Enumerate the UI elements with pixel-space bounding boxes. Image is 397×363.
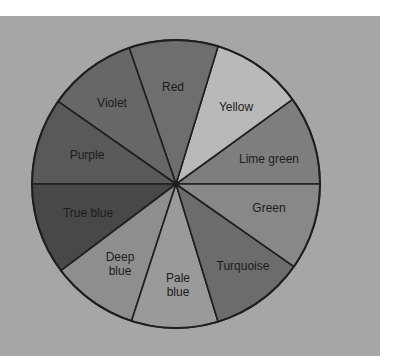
segment-label-red: Red bbox=[162, 80, 184, 94]
segment-label-yellow: Yellow bbox=[219, 100, 254, 114]
segment-label-true-blue: True blue bbox=[63, 206, 114, 220]
segment-label-pale-blue-line1: Pale bbox=[166, 271, 190, 285]
segment-label-purple: Purple bbox=[70, 148, 105, 162]
segment-label-green: Green bbox=[252, 201, 285, 215]
segment-label-deep-blue-line1: Deep bbox=[106, 250, 135, 264]
color-wheel: Lime green Yellow Red Violet Purple True… bbox=[0, 0, 397, 363]
segment-label-deep-blue-line2: blue bbox=[109, 264, 132, 278]
segment-label-lime-green: Lime green bbox=[239, 152, 299, 166]
segment-label-pale-blue-line2: blue bbox=[167, 285, 190, 299]
segment-label-turquoise: Turquoise bbox=[217, 259, 270, 273]
segment-label-violet: Violet bbox=[97, 96, 127, 110]
